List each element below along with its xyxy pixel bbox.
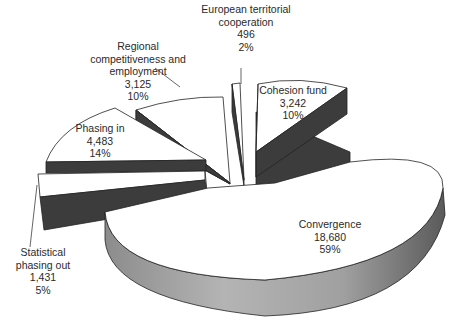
label-convergence: Convergence 18,680 59% [285,218,375,256]
label-statistical-phasing-out: Statistical phasing out 1,431 5% [8,246,78,296]
label-european-territorial-cooperation: European territorial cooperation 496 2% [196,3,296,53]
label-cohesion-fund: Cohesion fund 3,242 10% [258,84,328,122]
slice-european-territorial-cooperation [232,83,244,186]
label-phasing-in: Phasing in 4,483 14% [70,122,130,160]
label-regional-competitiveness: Regional competitiveness and employment … [83,40,193,103]
